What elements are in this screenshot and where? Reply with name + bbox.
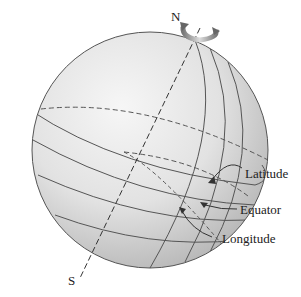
latitude-label: Latitude	[245, 167, 288, 180]
rotation-arrow-icon	[180, 22, 220, 40]
globe-diagram: N S Latitude Equator Longitude	[0, 0, 301, 297]
north-label: N	[171, 10, 180, 23]
longitude-label: Longitude	[222, 232, 275, 245]
south-label: S	[68, 274, 75, 287]
globe-svg	[0, 0, 301, 297]
equator-label: Equator	[240, 203, 281, 216]
